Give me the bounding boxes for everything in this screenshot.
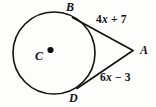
segment-length-label-top: 4x + 7 [96,14,127,26]
point-label-b: B [66,1,74,13]
circle-shape [13,12,95,94]
bottom-expr-constant: − 3 [112,71,131,83]
point-label-d: D [69,92,78,104]
segment-length-label-bottom: 6x − 3 [100,72,131,84]
geometry-figure: B A D C 4x + 7 6x − 3 [0,0,156,107]
geometry-canvas [0,0,156,107]
point-label-c: C [35,50,43,62]
top-expr-constant: + 7 [108,13,127,25]
point-label-a: A [140,44,148,56]
center-point-dot [47,47,53,53]
